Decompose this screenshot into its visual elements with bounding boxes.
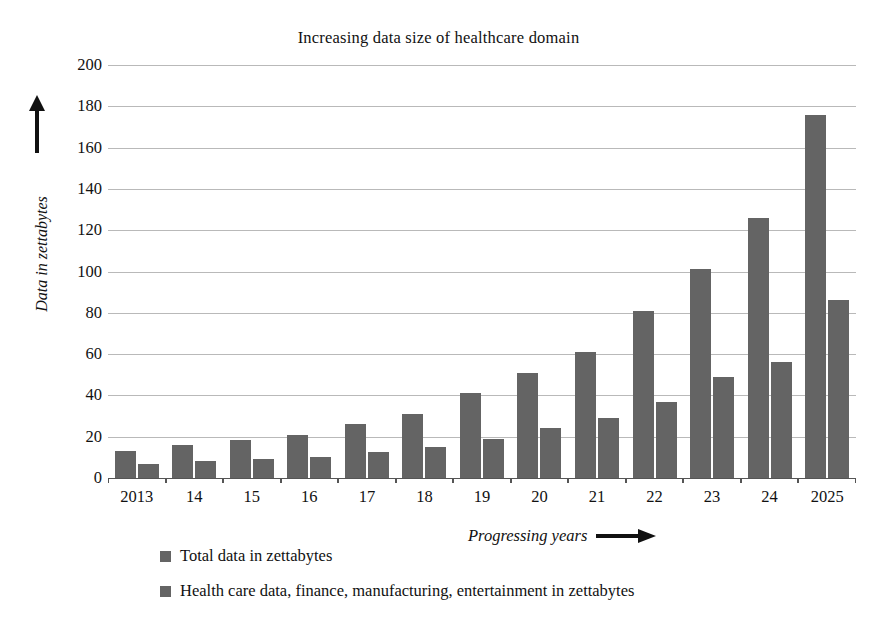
bar-group xyxy=(166,65,224,478)
bar[interactable] xyxy=(345,424,366,478)
x-axis-tick xyxy=(281,478,282,483)
x-axis-baseline xyxy=(108,478,856,479)
bar-group xyxy=(338,65,396,478)
bar-group xyxy=(396,65,454,478)
bar[interactable] xyxy=(633,311,654,478)
x-axis-tick xyxy=(338,478,339,483)
bar-group xyxy=(281,65,339,478)
x-tick-label: 20 xyxy=(511,487,569,511)
y-axis-tick-labels: 200180160140120100806040200 xyxy=(50,65,102,478)
bar[interactable] xyxy=(517,373,538,478)
x-axis-tick-labels: 201314151617181920212223242025 xyxy=(108,487,856,511)
x-tick-label: 14 xyxy=(166,487,224,511)
x-axis-tick xyxy=(511,478,512,483)
y-tick-label: 60 xyxy=(58,346,102,363)
legend-label: Health care data, finance, manufacturing… xyxy=(180,581,634,601)
bar[interactable] xyxy=(425,447,446,478)
bar-group xyxy=(683,65,741,478)
bar-group xyxy=(223,65,281,478)
y-axis-title: Data in zettabytes xyxy=(33,164,51,344)
x-tick-label: 22 xyxy=(626,487,684,511)
x-tick-label: 21 xyxy=(568,487,626,511)
x-axis-tick xyxy=(855,478,856,483)
x-axis-tick xyxy=(683,478,684,483)
bar-group xyxy=(798,65,856,478)
bar[interactable] xyxy=(656,402,677,478)
y-tick-label: 40 xyxy=(58,387,102,404)
y-tick-label: 80 xyxy=(58,305,102,322)
x-tick-label: 2025 xyxy=(798,487,856,511)
bar-group xyxy=(108,65,166,478)
legend-swatch-icon xyxy=(160,586,171,597)
bar-group xyxy=(741,65,799,478)
x-axis-tick xyxy=(741,478,742,483)
legend-item[interactable]: Total data in zettabytes xyxy=(160,546,820,566)
bar-chart-figure: Increasing data size of healthcare domai… xyxy=(0,0,877,626)
bar[interactable] xyxy=(368,452,389,478)
y-tick-label: 180 xyxy=(58,98,102,115)
bar-group xyxy=(511,65,569,478)
x-tick-label: 18 xyxy=(396,487,454,511)
bar[interactable] xyxy=(690,269,711,478)
legend-item[interactable]: Health care data, finance, manufacturing… xyxy=(160,581,820,601)
bar[interactable] xyxy=(172,445,193,478)
bar[interactable] xyxy=(575,352,596,478)
bar[interactable] xyxy=(253,459,274,478)
up-arrow-icon xyxy=(26,95,48,155)
bar[interactable] xyxy=(483,439,504,478)
chart-title: Increasing data size of healthcare domai… xyxy=(0,28,877,48)
bar[interactable] xyxy=(138,464,159,478)
bar[interactable] xyxy=(771,362,792,478)
y-tick-label: 140 xyxy=(58,181,102,198)
legend-swatch-icon xyxy=(160,551,171,562)
legend: Total data in zettabytesHealth care data… xyxy=(160,546,820,616)
x-axis-tick xyxy=(568,478,569,483)
bar[interactable] xyxy=(115,451,136,478)
bar[interactable] xyxy=(402,414,423,478)
x-axis-tick xyxy=(626,478,627,483)
bar[interactable] xyxy=(748,218,769,478)
bar[interactable] xyxy=(310,457,331,478)
plot-area xyxy=(108,65,856,478)
bar-group xyxy=(453,65,511,478)
x-axis-tick xyxy=(453,478,454,483)
legend-label: Total data in zettabytes xyxy=(180,546,332,566)
x-tick-label: 2013 xyxy=(108,487,166,511)
bar-group xyxy=(568,65,626,478)
x-tick-label: 24 xyxy=(741,487,799,511)
bar-groups xyxy=(108,65,856,478)
bar[interactable] xyxy=(828,300,849,478)
bar-group xyxy=(626,65,684,478)
right-arrow-icon xyxy=(596,528,656,544)
x-axis-title: Progressing years xyxy=(468,526,587,546)
y-tick-label: 0 xyxy=(58,470,102,487)
x-axis-title-block: Progressing years xyxy=(468,526,656,546)
y-tick-label: 120 xyxy=(58,222,102,239)
y-tick-label: 200 xyxy=(58,57,102,74)
x-tick-label: 15 xyxy=(223,487,281,511)
y-tick-label: 160 xyxy=(58,140,102,157)
bar[interactable] xyxy=(287,435,308,478)
x-axis-tick xyxy=(166,478,167,483)
bar[interactable] xyxy=(805,115,826,478)
x-axis-tick xyxy=(396,478,397,483)
x-tick-label: 19 xyxy=(453,487,511,511)
bar[interactable] xyxy=(230,440,251,478)
bar[interactable] xyxy=(713,377,734,478)
x-tick-label: 23 xyxy=(683,487,741,511)
y-tick-label: 100 xyxy=(58,264,102,281)
x-axis-tick xyxy=(798,478,799,483)
y-tick-label: 20 xyxy=(58,429,102,446)
x-axis-tick xyxy=(223,478,224,483)
x-tick-label: 16 xyxy=(281,487,339,511)
bar[interactable] xyxy=(195,461,216,478)
bar[interactable] xyxy=(598,418,619,478)
x-tick-label: 17 xyxy=(338,487,396,511)
bar[interactable] xyxy=(460,393,481,478)
x-axis-tick xyxy=(108,478,109,483)
bar[interactable] xyxy=(540,428,561,478)
